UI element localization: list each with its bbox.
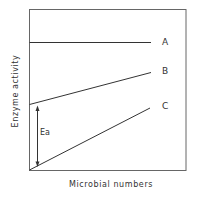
line-c <box>30 108 151 170</box>
series-label-a: A <box>162 37 168 47</box>
line-b <box>30 73 152 105</box>
y-axis-label: Enzyme activity <box>11 55 20 128</box>
series-label-b: B <box>162 66 168 76</box>
chart <box>0 0 198 200</box>
ea-label: Ea <box>40 128 50 137</box>
series-label-c: C <box>162 101 168 111</box>
plot-frame <box>30 10 187 171</box>
x-axis-label: Microbial numbers <box>0 180 198 189</box>
ea-arrow <box>36 106 40 168</box>
